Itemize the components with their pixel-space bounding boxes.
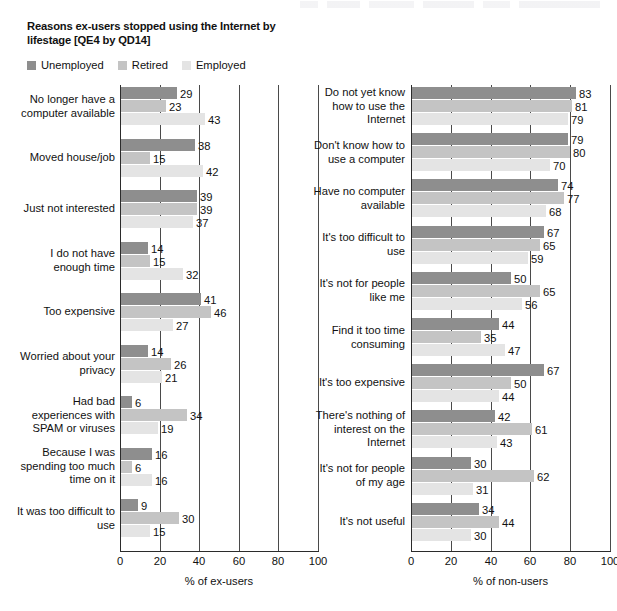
category-label: Had bad experiences with SPAM or viruses (10, 395, 115, 436)
bar-value-label: 68 (549, 206, 561, 218)
bar-value-label: 44 (502, 319, 514, 331)
category-label: Find it too time consuming (310, 324, 405, 351)
bar-unemployed (411, 226, 544, 238)
bar-employed (411, 390, 499, 402)
bar-retired (411, 470, 534, 482)
legend-label-retired: Retired (132, 59, 168, 71)
bar-retired (411, 146, 570, 158)
bar-value-label: 30 (474, 530, 486, 542)
bar-retired (411, 100, 572, 112)
bar-employed (411, 113, 568, 125)
category-label: Have no computer available (310, 185, 405, 212)
bar-value-label: 81 (575, 101, 587, 113)
category-label: It's not for people like me (310, 277, 405, 304)
bar-value-label: 77 (567, 193, 579, 205)
bar-value-label: 44 (502, 391, 514, 403)
bar-employed (411, 252, 528, 264)
bar-employed (120, 216, 193, 228)
bar-employed (120, 113, 205, 125)
legend-ex-users: Unemployed Retired Employed (27, 59, 246, 71)
bar-value-label: 35 (484, 332, 496, 344)
bar-value-label: 6 (135, 397, 141, 409)
y-axis-line (120, 85, 121, 551)
bar-value-label: 65 (543, 240, 555, 252)
legend-item-unemployed: Unemployed (27, 59, 104, 71)
bar-value-label: 21 (165, 372, 177, 384)
x-axis-title: % of non-users (411, 575, 610, 587)
bar-value-label: 14 (151, 346, 163, 358)
bar-retired (120, 100, 166, 112)
category-label: No longer have a computer available (10, 93, 115, 120)
bar-value-label: 59 (531, 253, 543, 265)
bar-retired (120, 358, 171, 370)
gridline-80 (570, 85, 571, 551)
bar-unemployed (120, 345, 148, 357)
category-label: It was too difficult to use (10, 505, 115, 532)
bar-value-label: 62 (537, 471, 549, 483)
bar-retired (411, 239, 540, 251)
bar-value-label: 43 (500, 437, 512, 449)
bar-value-label: 42 (498, 411, 510, 423)
legend-swatch-retired-icon (118, 61, 127, 70)
bar-value-label: 79 (571, 114, 583, 126)
bar-value-label: 83 (579, 88, 591, 100)
bar-employed (120, 525, 150, 537)
bar-retired (411, 377, 511, 389)
bar-employed (120, 371, 162, 383)
category-label: Just not interested (10, 202, 115, 216)
bar-employed (411, 529, 471, 541)
bar-value-label: 65 (543, 286, 555, 298)
bar-value-label: 67 (547, 365, 559, 377)
category-label: Don't know how to use a computer (310, 139, 405, 166)
bar-unemployed (411, 179, 558, 191)
x-tick-label-100: 100 (303, 555, 333, 567)
bar-retired (120, 306, 211, 318)
bar-value-label: 47 (508, 345, 520, 357)
x-tick-label-0: 0 (396, 555, 426, 567)
category-label: It's not useful (310, 515, 405, 529)
category-label: It's too expensive (310, 376, 405, 390)
x-tick-label-60: 60 (515, 555, 545, 567)
bar-value-label: 29 (180, 88, 192, 100)
bar-unemployed (411, 272, 511, 284)
bar-unemployed (120, 190, 197, 202)
bar-unemployed (120, 242, 148, 254)
bar-employed (120, 474, 152, 486)
bar-value-label: 50 (514, 378, 526, 390)
bar-unemployed (120, 293, 201, 305)
x-axis-line (411, 551, 611, 552)
bar-value-label: 34 (482, 504, 494, 516)
bar-retired (120, 152, 150, 164)
bar-employed (411, 483, 473, 495)
bar-value-label: 46 (214, 307, 226, 319)
bar-value-label: 31 (476, 484, 488, 496)
x-tick-label-80: 80 (555, 555, 585, 567)
category-label: Too expensive (10, 305, 115, 319)
bar-employed (411, 298, 522, 310)
x-tick-label-40: 40 (184, 555, 214, 567)
legend-swatch-unemployed-icon (27, 61, 36, 70)
bar-employed (120, 319, 173, 331)
bar-value-label: 26 (174, 359, 186, 371)
x-axis-title: % of ex-users (120, 575, 318, 587)
bar-value-label: 39 (200, 204, 212, 216)
bar-unemployed (120, 87, 177, 99)
bar-employed (411, 436, 497, 448)
legend-item-retired: Retired (118, 59, 168, 71)
bar-value-label: 61 (535, 424, 547, 436)
bar-value-label: 19 (161, 423, 173, 435)
bar-retired (120, 512, 179, 524)
plot-area-ex-users: No longer have a computer available29234… (0, 85, 310, 555)
bar-retired (411, 423, 532, 435)
bar-unemployed (411, 133, 568, 145)
bar-value-label: 27 (176, 320, 188, 332)
bar-value-label: 44 (502, 517, 514, 529)
bar-value-label: 15 (153, 256, 165, 268)
bar-retired (120, 461, 132, 473)
bar-retired (411, 516, 499, 528)
category-label: Do not yet know how to use the Internet (310, 86, 405, 127)
x-tick-label-20: 20 (436, 555, 466, 567)
bar-value-label: 41 (204, 294, 216, 306)
y-axis-line (411, 85, 412, 551)
category-label: There's nothing of interest on the Inter… (310, 409, 405, 450)
